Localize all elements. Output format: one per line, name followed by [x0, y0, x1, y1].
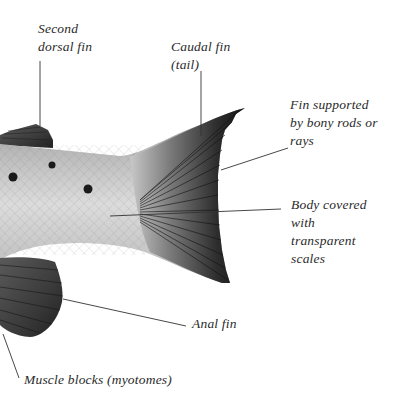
label-caudal-fin: Caudal fin (tail) [171, 38, 230, 74]
label-line: Caudal fin [171, 38, 230, 56]
label-line: by bony rods or [290, 114, 378, 132]
leader-fin-rays [221, 148, 288, 170]
label-line: Second [38, 20, 92, 38]
label-line: with [291, 214, 367, 232]
label-line: rays [290, 132, 378, 150]
label-body-scales: Body covered with transparent scales [291, 196, 367, 268]
label-second-dorsal-fin: Second dorsal fin [38, 20, 92, 56]
label-line: Muscle blocks (myotomes) [24, 371, 172, 389]
label-line: Anal fin [192, 315, 237, 333]
label-muscle-blocks: Muscle blocks (myotomes) [24, 371, 172, 389]
label-line: (tail) [171, 56, 230, 74]
anal-fin-shape [0, 257, 63, 337]
label-line: transparent [291, 232, 367, 250]
label-anal-fin: Anal fin [192, 315, 237, 333]
leader-muscle-blocks [3, 334, 19, 378]
label-line: Body covered [291, 196, 367, 214]
label-fin-rays: Fin supported by bony rods or rays [290, 96, 378, 150]
label-line: scales [291, 250, 367, 268]
leader-anal-fin [63, 299, 186, 326]
label-line: Fin supported [290, 96, 378, 114]
fish-tail-diagram: Second dorsal fin Caudal fin (tail) Fin … [0, 0, 403, 408]
label-line: dorsal fin [38, 38, 92, 56]
